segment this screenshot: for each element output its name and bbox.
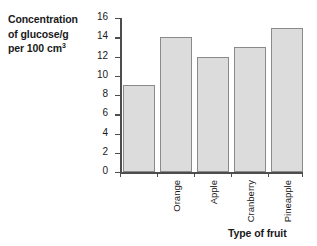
y-axis-tick-label-16: 16 — [97, 11, 108, 22]
y-axis-tick-label-2: 2 — [102, 146, 108, 157]
y-axis-tick-label-6: 6 — [102, 107, 108, 118]
y-axis-tick-label-10: 10 — [97, 69, 108, 80]
x-axis-line — [120, 172, 303, 174]
x-axis-category-label-cranberry: Cranberry — [246, 180, 256, 222]
y-axis-line — [120, 18, 122, 172]
y-axis-title-line-1: Concentration — [8, 12, 100, 27]
y-axis-tick-6: 6 — [115, 114, 120, 115]
y-axis-tick-label-12: 12 — [97, 50, 108, 61]
x-axis-tick-2 — [194, 172, 195, 177]
y-axis-title-line-3: per 100 cm3 — [8, 41, 100, 56]
y-axis-title: Concentration of glucose/g per 100 cm3 — [8, 12, 100, 56]
y-axis-tick-16: 16 — [115, 18, 120, 19]
y-axis-tick-label-0: 0 — [102, 165, 108, 176]
y-axis-tick-14: 14 — [115, 37, 120, 38]
bar-cranberry — [234, 47, 266, 172]
x-axis-tick-0 — [120, 172, 121, 177]
bar-pineapple — [271, 28, 303, 172]
y-axis-tick-10: 10 — [115, 76, 120, 77]
y-axis-tick-label-4: 4 — [102, 127, 108, 138]
x-axis-tick-5 — [302, 172, 303, 177]
x-axis-tick-1 — [157, 172, 158, 177]
bar-apple — [197, 57, 229, 173]
x-axis-category-label-apple: Apple — [209, 180, 219, 204]
y-axis-tick-4: 4 — [115, 134, 120, 135]
bar-orange — [160, 37, 192, 172]
x-axis-category-label-orange: Orange — [172, 180, 182, 212]
y-axis-tick-12: 12 — [115, 57, 120, 58]
y-axis-title-superscript: 3 — [62, 42, 66, 49]
y-axis-tick-label-14: 14 — [97, 30, 108, 41]
y-axis-title-line-3-text: per 100 cm — [8, 42, 62, 54]
bar-chart-figure: Concentration of glucose/g per 100 cm3 1… — [0, 0, 317, 246]
bar-passion-fruit — [123, 85, 155, 172]
y-axis-title-line-2: of glucose/g — [8, 27, 100, 42]
x-axis-title: Type of fruit — [228, 227, 287, 239]
y-axis-tick-8: 8 — [115, 95, 120, 96]
x-axis-tick-3 — [231, 172, 232, 177]
x-axis-tick-4 — [268, 172, 269, 177]
plot-area: 16 14 12 10 8 6 4 2 0 — [120, 18, 303, 172]
x-axis-category-label-pineapple: Pineapple — [283, 180, 293, 222]
y-axis-tick-2: 2 — [115, 153, 120, 154]
y-axis-tick-label-8: 8 — [102, 88, 108, 99]
